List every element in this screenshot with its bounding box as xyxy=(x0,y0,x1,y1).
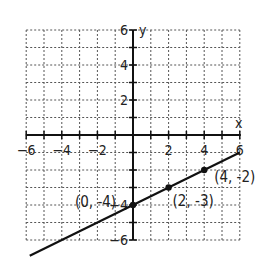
x-tick-label: 4 xyxy=(200,142,208,158)
x-tick-label: 2 xyxy=(165,142,173,158)
y-axis-label: y xyxy=(139,22,147,38)
x-tick-label: 6 xyxy=(236,142,244,158)
x-tick-label: −4 xyxy=(53,142,72,158)
data-point-marker xyxy=(130,202,136,208)
x-tick-label: −2 xyxy=(88,142,107,158)
y-tick-label: −6 xyxy=(109,232,128,248)
y-tick-label: 6 xyxy=(120,22,128,38)
coordinate-plane: −6−4−2246642−4−6 (0, -4)(2, -3)(4, -2) x… xyxy=(0,0,255,272)
y-tick-label: 4 xyxy=(120,57,128,73)
data-point-marker xyxy=(201,167,207,173)
data-point-label: (0, -4) xyxy=(75,193,116,211)
x-tick-label: −6 xyxy=(17,142,36,158)
x-axis-label: x xyxy=(235,115,243,131)
y-tick-label: 2 xyxy=(120,92,128,108)
data-point-label: (2, -3) xyxy=(173,192,214,210)
data-point-label: (4, -2) xyxy=(214,168,255,186)
data-point-marker xyxy=(165,184,171,190)
